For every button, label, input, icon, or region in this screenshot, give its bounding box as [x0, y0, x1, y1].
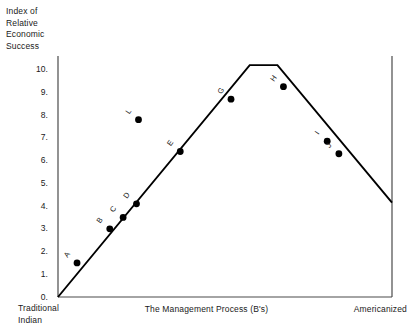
x-axis-right-caption: Americanized: [354, 304, 407, 314]
data-point-label: D: [121, 190, 132, 200]
data-point-marker: [120, 214, 127, 221]
data-point-marker: [133, 200, 140, 207]
data-point-marker: [74, 260, 81, 267]
x-axis-title: The Management Process (B's): [0, 304, 413, 314]
data-point-label: C: [108, 204, 119, 214]
x-axis-left-caption-line-2: Indian: [18, 315, 59, 327]
series-group: [58, 65, 392, 297]
data-point-label: E: [165, 138, 175, 147]
data-point-marker: [106, 225, 113, 232]
trend-line: [58, 65, 392, 297]
data-point-marker: [177, 148, 184, 155]
plot-area: ABCDEGHIJL: [0, 0, 413, 332]
data-point-label: B: [95, 216, 105, 225]
data-point-marker: [280, 83, 287, 90]
data-point-label: H: [268, 73, 278, 83]
data-markers-group: ABCDEGHIJL: [62, 73, 342, 266]
data-point-label: L: [124, 107, 134, 116]
data-point-label: A: [62, 250, 72, 259]
data-point-label: I: [313, 129, 322, 136]
data-point-marker: [335, 150, 342, 157]
chart-figure: Index of Relative Economic Success 0.1.2…: [0, 0, 413, 332]
data-point-marker: [228, 96, 235, 103]
data-point-marker: [135, 116, 142, 123]
